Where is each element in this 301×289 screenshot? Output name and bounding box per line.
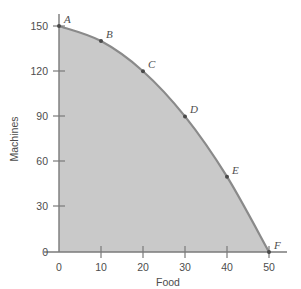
y-tick-label-30: 30	[36, 200, 48, 212]
x-tick-label-40: 40	[221, 261, 233, 273]
y-tick-label-90: 90	[36, 110, 48, 122]
data-point-a	[57, 24, 61, 28]
y-tick-label-120: 120	[30, 65, 48, 77]
production-region-fill	[59, 26, 269, 252]
point-label-f: F	[273, 239, 281, 251]
x-axis-title: Food	[156, 276, 180, 288]
data-point-c	[141, 69, 145, 73]
x-tick-label-30: 30	[179, 261, 191, 273]
point-label-c: C	[148, 58, 156, 70]
data-point-e	[225, 175, 229, 179]
point-label-a: A	[63, 13, 71, 25]
x-tick-label-20: 20	[137, 261, 149, 273]
point-label-d: D	[189, 103, 198, 115]
x-tick-label-50: 50	[263, 261, 275, 273]
chart-svg: 150 120 90 60 30 0 0 10 20 30 40 50 Mach…	[0, 0, 301, 289]
y-axis-title: Machines	[8, 117, 20, 162]
data-point-f	[267, 250, 271, 254]
point-label-b: B	[106, 28, 113, 40]
ppf-chart: 150 120 90 60 30 0 0 10 20 30 40 50 Mach…	[0, 0, 301, 289]
data-point-d	[183, 114, 187, 118]
x-tick-labels: 0 10 20 30 40 50	[56, 261, 275, 273]
y-tick-label-60: 60	[36, 155, 48, 167]
x-tick-label-0: 0	[56, 261, 62, 273]
y-tick-labels: 150 120 90 60 30 0	[30, 20, 48, 258]
data-point-b	[99, 39, 103, 43]
x-tick-label-10: 10	[95, 261, 107, 273]
y-tick-label-150: 150	[30, 20, 48, 32]
y-tick-label-0: 0	[42, 246, 48, 258]
point-label-e: E	[231, 164, 239, 176]
